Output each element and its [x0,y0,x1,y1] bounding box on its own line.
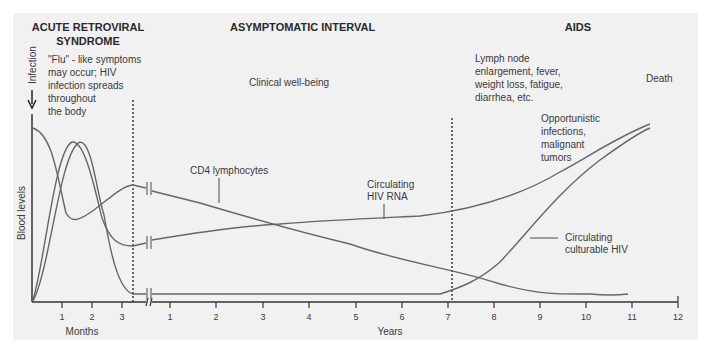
svg-text:7: 7 [445,312,450,322]
phase-title-acute-2: SYNDROME [56,35,120,47]
series-cd4 [33,128,628,295]
phase-title-acute: ACUTE RETROVIRAL [32,21,145,33]
svg-text:"Flu" - like symptoms: "Flu" - like symptoms [48,54,141,65]
svg-text:8: 8 [491,312,496,322]
svg-text:10: 10 [581,312,591,322]
svg-text:may occur; HIV: may occur; HIV [48,67,117,78]
years-label: Years [377,326,402,337]
svg-text:Lymph node: Lymph node [475,53,530,64]
y-axis-label: Blood levels [16,186,27,240]
series-hiv-rna [33,124,650,300]
svg-text:malignant: malignant [541,139,585,150]
cd4-label: CD4 lymphocytes [190,165,268,176]
svg-text:tumors: tumors [541,152,572,163]
death-label: Death [646,73,673,84]
svg-text:2: 2 [213,312,218,322]
phase-title-asymptomatic: ASYMPTOMATIC INTERVAL [230,21,376,33]
svg-text:the body: the body [48,106,86,117]
svg-text:Circulating: Circulating [565,232,612,243]
svg-text:1: 1 [167,312,172,322]
phase-title-aids: AIDS [565,21,591,33]
svg-text:2: 2 [89,312,94,322]
svg-text:11: 11 [627,312,636,322]
svg-text:HIV RNA: HIV RNA [367,191,408,202]
svg-text:1: 1 [59,312,64,322]
clinical-wellbeing-label: Clinical well-being [249,77,329,88]
lymph-annotation: Lymph node enlargement, fever, weight lo… [474,53,563,103]
opportunistic-annotation: Opportunistic infections, malignant tumo… [541,113,600,163]
svg-text:infection spreads: infection spreads [48,80,124,91]
svg-text:throughout: throughout [48,93,96,104]
svg-text:4: 4 [306,312,311,322]
svg-text:Opportunistic: Opportunistic [541,113,600,124]
svg-text:Circulating: Circulating [367,179,414,190]
svg-text:6: 6 [399,312,404,322]
hiv-course-diagram: ACUTE RETROVIRAL SYNDROME ASYMPTOMATIC I… [0,0,710,353]
svg-text:9: 9 [537,312,542,322]
month-ticks [62,302,122,308]
months-label: Months [66,326,99,337]
svg-text:12: 12 [673,312,683,322]
svg-text:diarrhea, etc.: diarrhea, etc. [475,92,533,103]
svg-text:5: 5 [353,312,358,322]
hiv-rna-label: Circulating HIV RNA [367,179,414,202]
svg-text:3: 3 [260,312,265,322]
infection-label: Infection [27,46,38,84]
svg-text:infections,: infections, [541,126,586,137]
curve-break-marks [147,182,151,300]
year-tick-labels: 1 2 3 4 5 6 7 8 9 10 11 12 [167,312,683,322]
culturable-hiv-label: Circulating culturable HIV [565,232,628,255]
acute-annotation: "Flu" - like symptoms may occur; HIV inf… [48,54,141,117]
svg-text:weight loss, fatigue,: weight loss, fatigue, [474,79,563,90]
svg-text:3: 3 [119,312,124,322]
svg-text:enlargement, fever,: enlargement, fever, [475,66,561,77]
month-tick-labels: 1 2 3 [59,312,124,322]
svg-text:culturable HIV: culturable HIV [565,244,628,255]
